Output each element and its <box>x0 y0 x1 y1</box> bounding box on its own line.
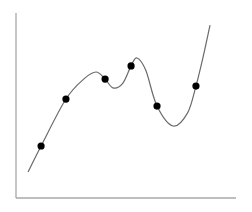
fitted-curve-line <box>28 25 210 172</box>
chart <box>0 0 252 212</box>
axes <box>16 13 236 198</box>
data-point <box>102 75 109 82</box>
data-point <box>37 142 44 149</box>
data-point <box>127 62 134 69</box>
data-point <box>153 102 160 109</box>
plot-area <box>28 25 210 172</box>
data-point <box>62 95 69 102</box>
data-point <box>192 82 199 89</box>
